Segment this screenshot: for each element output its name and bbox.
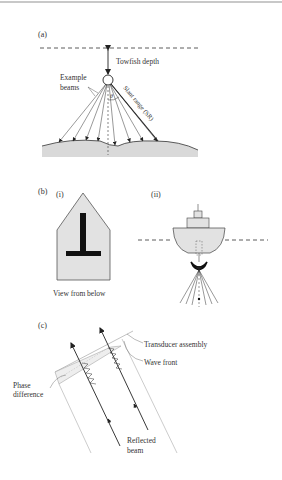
panel-a-label: (a): [38, 30, 47, 39]
transducer-pointer: [127, 334, 143, 343]
beam-arrowhead: [198, 298, 200, 300]
panel-b-i-label: (i): [56, 190, 64, 199]
panel-b-label: (b): [38, 187, 48, 196]
phase-difference-label-1: Phase: [13, 381, 31, 390]
towfish-icon: [103, 75, 113, 85]
transducer-assembly-line: [55, 331, 133, 372]
reflected-beam-label-2: beam: [127, 446, 143, 455]
wavefront-pointer: [124, 341, 143, 361]
ship-beams: [180, 270, 218, 307]
transducer-bar: [66, 251, 101, 256]
panel-c: (c) Transducer assembly Wave front Phase…: [13, 321, 208, 455]
bridge: [187, 218, 209, 228]
transducer-assembly-label: Transducer assembly: [144, 340, 208, 349]
example-beams-label-2: beams: [60, 83, 79, 92]
panel-b-ii-label: (ii): [151, 190, 161, 199]
beams-pointer-1: [88, 87, 98, 93]
transducer-icon: [191, 262, 207, 270]
transducer-stem: [80, 213, 86, 253]
sonar-diagram: (a) Towfish depth θ Example beams: [0, 0, 282, 480]
beam-boundary-left: [59, 384, 91, 453]
reflected-beam-label-1: Reflected: [127, 436, 156, 445]
towfish-depth-label: Towfish depth: [116, 57, 159, 66]
phase-difference-label-2: difference: [13, 390, 44, 399]
bridge-top: [194, 211, 202, 218]
panel-b: (b) (i) View from below (ii): [38, 187, 268, 307]
wave-front-label: Wave front: [144, 358, 178, 367]
panel-a: (a) Towfish depth θ Example beams: [38, 30, 200, 157]
angle-theta-label: θ: [110, 93, 113, 99]
panel-c-label: (c): [38, 321, 47, 330]
view-from-below-caption: View from below: [53, 289, 106, 298]
ship-hull: [173, 228, 225, 253]
beams-pointer-2: [88, 87, 95, 96]
example-beams-label-1: Example: [60, 73, 87, 82]
